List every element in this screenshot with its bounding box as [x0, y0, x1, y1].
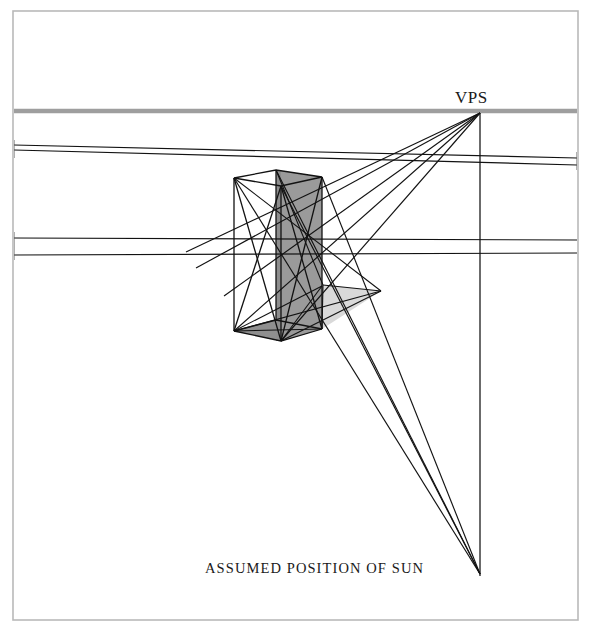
figure-canvas: VPS ASSUMED POSITION OF SUN [0, 0, 592, 637]
assumed-sun-position-label: ASSUMED POSITION OF SUN [205, 560, 424, 576]
perspective-construction-drawing: VPS ASSUMED POSITION OF SUN [0, 0, 592, 637]
box-face-dark-right [276, 170, 322, 341]
vps-label: VPS [455, 88, 488, 107]
